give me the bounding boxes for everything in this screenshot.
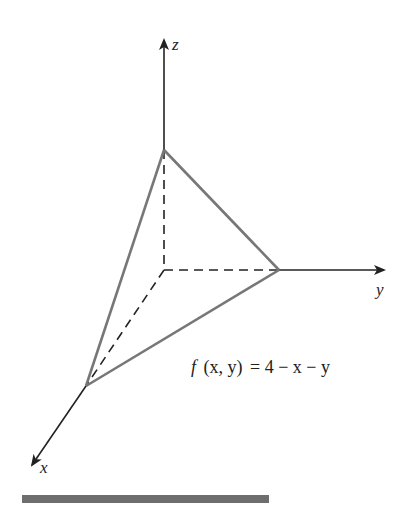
- plane-triangle: [86, 150, 279, 386]
- edge-z-to-y: [164, 150, 279, 270]
- z-axis-label: z: [171, 35, 179, 54]
- formula-f: f: [191, 357, 199, 377]
- diagram-canvas: z y x f (x, y) = 4 − x − y: [0, 0, 406, 515]
- x-axis-label: x: [39, 458, 48, 477]
- formula-args: (x, y): [204, 357, 243, 378]
- bottom-rule-bar: [22, 495, 269, 503]
- function-formula: f (x, y) = 4 − x − y: [191, 357, 330, 378]
- x-axis-hidden: [86, 270, 164, 386]
- y-axis-label: y: [374, 280, 384, 299]
- x-axis: [32, 386, 86, 465]
- formula-rhs: = 4 − x − y: [250, 357, 330, 377]
- edge-x-to-z: [86, 150, 164, 386]
